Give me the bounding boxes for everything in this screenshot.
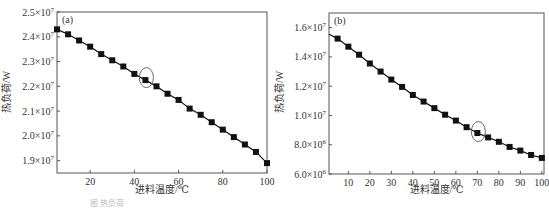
- data-point-marker: [528, 152, 534, 158]
- data-point-marker: [65, 31, 71, 37]
- data-point-marker: [98, 51, 104, 57]
- data-point-marker: [388, 77, 394, 83]
- x-tick-label: 20: [85, 176, 95, 187]
- data-point-marker: [242, 142, 248, 148]
- data-point-marker: [539, 155, 545, 161]
- data-point-marker: [142, 77, 148, 83]
- figure-caption: 图 热负荷: [90, 197, 124, 208]
- y-tick-label: 2.3×107: [22, 55, 54, 67]
- y-tick-label: 2.2×107: [22, 80, 54, 92]
- y-tick-label: 2.0×107: [22, 129, 54, 141]
- x-tick-label: 10: [343, 177, 353, 188]
- x-axis-label: 进料温度/℃: [410, 183, 464, 195]
- data-point-marker: [187, 106, 193, 112]
- data-point-marker: [345, 44, 351, 50]
- data-point-marker: [410, 92, 416, 98]
- data-point-marker: [453, 118, 459, 124]
- x-tick-label: 80: [218, 176, 228, 187]
- data-point-marker: [54, 26, 60, 32]
- data-point-marker: [198, 112, 204, 118]
- data-point-marker: [517, 148, 523, 154]
- chart-panel-a: 204060801001.9×1072.0×1072.1×1072.2×1072…: [0, 6, 275, 196]
- data-point-marker: [76, 37, 82, 43]
- data-point-marker: [421, 99, 427, 105]
- data-point-marker: [231, 134, 237, 140]
- data-point-marker: [87, 44, 93, 50]
- data-point-marker: [131, 71, 137, 77]
- y-tick-label: 2.4×107: [22, 30, 54, 42]
- data-point-marker: [474, 130, 480, 136]
- data-point-marker: [464, 124, 470, 130]
- data-point-marker: [209, 119, 215, 125]
- data-point-marker: [120, 63, 126, 69]
- data-point-marker: [153, 83, 159, 89]
- x-tick-label: 80: [494, 177, 504, 188]
- data-point-marker: [335, 36, 341, 42]
- x-axis-label: 进料温度/℃: [135, 183, 189, 195]
- y-tick-label: 2.1×107: [22, 105, 54, 117]
- data-point-marker: [378, 69, 384, 75]
- y-tick-label: 1.6×107: [294, 21, 326, 33]
- chart-panel-b: 1020304050607080901006.0×1068.0×1061.0×1…: [273, 13, 549, 195]
- x-tick-label: 90: [515, 177, 525, 188]
- chart-figure: 204060801001.9×1072.0×1072.1×1072.2×1072…: [0, 0, 549, 208]
- data-point-marker: [399, 84, 405, 90]
- data-point-marker: [496, 139, 502, 145]
- x-tick-label: 30: [386, 177, 396, 188]
- data-point-marker: [356, 52, 362, 58]
- y-tick-label: 6.0×106: [294, 168, 326, 180]
- data-point-marker: [485, 134, 491, 140]
- data-point-marker: [176, 97, 182, 103]
- data-point-marker: [165, 91, 171, 97]
- y-tick-label: 8.0×106: [294, 138, 326, 150]
- y-tick-label: 2.5×107: [22, 6, 54, 18]
- data-point-marker: [253, 149, 259, 155]
- data-point-marker: [220, 127, 226, 133]
- y-tick-label: 1.9×107: [22, 154, 54, 166]
- y-axis-label: 热负荷/W: [0, 70, 12, 113]
- data-point-marker: [431, 105, 437, 111]
- panel-label: (a): [62, 14, 73, 26]
- x-tick-label: 100: [260, 176, 275, 187]
- y-tick-label: 1.0×107: [294, 109, 326, 121]
- panel-label: (b): [334, 15, 346, 27]
- data-point-marker: [109, 57, 115, 63]
- plot-frame: [57, 12, 267, 173]
- x-tick-label: 70: [472, 177, 482, 188]
- data-point-marker: [507, 144, 513, 150]
- x-tick-label: 100: [534, 177, 549, 188]
- x-tick-label: 20: [365, 177, 375, 188]
- data-point-marker: [264, 160, 270, 166]
- y-tick-label: 1.4×107: [294, 50, 326, 62]
- y-tick-label: 1.2×107: [294, 80, 326, 92]
- data-point-marker: [442, 112, 448, 118]
- data-point-marker: [367, 60, 373, 66]
- y-axis-label: 热负荷/W: [273, 70, 285, 113]
